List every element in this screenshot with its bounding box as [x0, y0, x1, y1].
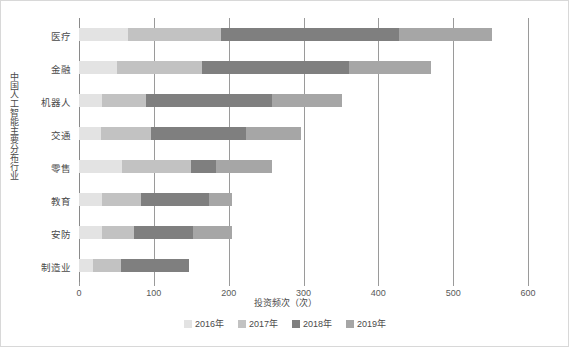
x-axis-tick [453, 282, 454, 286]
bar-row[interactable] [79, 61, 528, 74]
y-axis-line [79, 18, 80, 282]
category-label-教育: 教育 [1, 194, 71, 208]
bar-segment-2017年[interactable] [102, 226, 134, 239]
gridline [528, 18, 529, 282]
bar-segment-2016年[interactable] [79, 94, 102, 107]
legend-item-2019年[interactable]: 2019年 [346, 317, 386, 330]
legend-label: 2017年 [249, 317, 278, 330]
category-label-医疗: 医疗 [1, 29, 71, 43]
bar-segment-2019年[interactable] [272, 94, 342, 107]
x-axis-tick [79, 282, 80, 286]
bar-segment-2018年[interactable] [191, 160, 216, 173]
bar-segment-2016年[interactable] [79, 127, 101, 140]
x-axis-title: 投资频次（次） [0, 296, 570, 309]
bar-segment-2019年[interactable] [349, 61, 431, 74]
chart-legend: 2016年2017年2018年2019年 [0, 317, 570, 330]
gridline [378, 18, 379, 282]
bar-row[interactable] [79, 160, 528, 173]
bar-segment-2017年[interactable] [102, 94, 146, 107]
bar-row[interactable] [79, 259, 528, 272]
bar-segment-2019年[interactable] [209, 193, 231, 206]
chart-root: 0100200300400500600医疗金融机器人交通零售教育安防制造业 中国… [0, 0, 570, 348]
gridline [453, 18, 454, 282]
legend-swatch-icon [292, 320, 300, 328]
category-label-制造业: 制造业 [1, 260, 71, 274]
legend-item-2018年[interactable]: 2018年 [292, 317, 332, 330]
gridline [154, 18, 155, 282]
bar-segment-2016年[interactable] [79, 61, 117, 74]
legend-swatch-icon [346, 320, 354, 328]
bar-segment-2017年[interactable] [101, 127, 151, 140]
bar-segment-2016年[interactable] [79, 226, 102, 239]
bar-segment-2016年[interactable] [79, 193, 102, 206]
bar-segment-2017年[interactable] [128, 28, 222, 41]
bar-segment-2019年[interactable] [193, 226, 233, 239]
x-axis-tick [528, 282, 529, 286]
bar-segment-2016年[interactable] [79, 28, 128, 41]
bar-segment-2019年[interactable] [216, 160, 272, 173]
bar-row[interactable] [79, 193, 528, 206]
bar-segment-2019年[interactable] [399, 28, 492, 41]
gridline [229, 18, 230, 282]
legend-swatch-icon [184, 320, 192, 328]
bar-segment-2018年[interactable] [134, 226, 192, 239]
bar-segment-2016年[interactable] [79, 259, 93, 272]
plot-area: 0100200300400500600医疗金融机器人交通零售教育安防制造业 [79, 18, 528, 282]
x-axis-tick [304, 282, 305, 286]
legend-swatch-icon [238, 320, 246, 328]
legend-label: 2019年 [357, 317, 386, 330]
category-label-安防: 安防 [1, 227, 71, 241]
bar-segment-2017年[interactable] [93, 259, 121, 272]
bar-segment-2019年[interactable] [246, 127, 301, 140]
bar-segment-2017年[interactable] [122, 160, 192, 173]
legend-label: 2018年 [303, 317, 332, 330]
bar-row[interactable] [79, 28, 528, 41]
y-axis-title: 中国人工智能主要分布行业 [8, 72, 21, 180]
bar-segment-2018年[interactable] [151, 127, 246, 140]
bar-segment-2018年[interactable] [221, 28, 399, 41]
legend-item-2016年[interactable]: 2016年 [184, 317, 224, 330]
bar-row[interactable] [79, 127, 528, 140]
bar-segment-2017年[interactable] [117, 61, 202, 74]
x-axis-tick [378, 282, 379, 286]
x-axis-tick [154, 282, 155, 286]
bar-segment-2018年[interactable] [141, 193, 209, 206]
legend-item-2017年[interactable]: 2017年 [238, 317, 278, 330]
bar-segment-2017年[interactable] [102, 193, 141, 206]
x-axis-tick [229, 282, 230, 286]
bar-segment-2018年[interactable] [121, 259, 189, 272]
bar-segment-2018年[interactable] [202, 61, 349, 74]
bar-segment-2016年[interactable] [79, 160, 122, 173]
bar-row[interactable] [79, 226, 528, 239]
bar-row[interactable] [79, 94, 528, 107]
bar-segment-2018年[interactable] [146, 94, 272, 107]
legend-label: 2016年 [195, 317, 224, 330]
gridline [304, 18, 305, 282]
